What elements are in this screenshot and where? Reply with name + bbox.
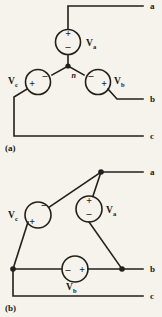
source-va-plus-sign: + [86, 195, 92, 206]
right-vertex-dot [119, 266, 125, 272]
circuit-diagram-page: + – V a n + – V c – + V b a b c (a) [0, 0, 162, 317]
source-vc-minus-sign: – [41, 199, 48, 210]
figure-b-terminal-b-label: b [150, 264, 155, 274]
source-vb-minus-sign: – [65, 264, 72, 275]
source-vb-label-subscript: b [73, 287, 77, 294]
source-vc-plus-sign: + [29, 216, 35, 227]
source-vb-label: V [66, 282, 73, 292]
figure-b-terminal-c-label: c [150, 291, 154, 301]
figure-b-caption: (b) [5, 303, 16, 313]
wire-vc-to-left-vertex [13, 222, 28, 269]
source-vc-label-subscript: c [15, 215, 18, 222]
source-vb-plus-sign: + [79, 264, 85, 275]
source-va-label-subscript: a [113, 210, 117, 217]
source-va-minus-sign: – [86, 208, 93, 219]
figure-b-terminal-a-label: a [150, 167, 155, 177]
source-vc-label: V [8, 210, 15, 220]
source-va-label: V [106, 205, 113, 215]
wire-va-to-right-vertex [89, 222, 122, 269]
figure-b-delta: – + V c + – V a – + V b a b c (b) [0, 0, 162, 317]
